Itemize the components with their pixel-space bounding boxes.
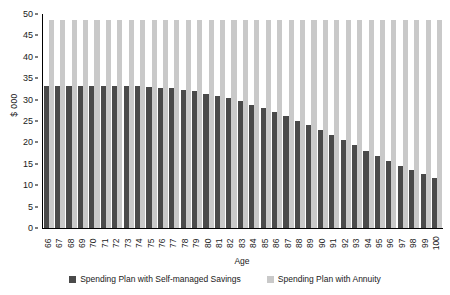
x-tick-label: 94 (363, 239, 372, 248)
x-tick-label: 92 (340, 239, 349, 248)
x-tick-label: 71 (101, 239, 110, 248)
bar-group (374, 14, 385, 228)
bar-group (54, 14, 65, 228)
bar-annuity (380, 20, 385, 228)
bar-group (43, 14, 54, 228)
bar-group (203, 14, 214, 228)
bar-group (420, 14, 431, 228)
bar-annuity (403, 20, 408, 228)
y-tick-label: 25 (23, 117, 33, 126)
x-tick-label: 77 (169, 239, 178, 248)
x-tick-label: 66 (43, 239, 52, 248)
x-tick-label: 90 (318, 239, 327, 248)
x-tick-label: 72 (112, 239, 121, 248)
bar-group (397, 14, 408, 228)
x-tick-label: 93 (352, 239, 361, 248)
bar-annuity (140, 20, 145, 228)
bar-annuity (266, 20, 271, 228)
x-tick-label: 91 (329, 239, 338, 248)
y-tick-mark (35, 142, 38, 143)
bar-annuity (49, 20, 54, 228)
bar-group (409, 14, 420, 228)
legend-label: Spending Plan with Self-managed Savings (80, 274, 241, 284)
bar-group (169, 14, 180, 228)
legend-swatch-icon (69, 276, 76, 283)
y-tick-label: 15 (23, 159, 33, 168)
bar-annuity (83, 20, 88, 228)
x-tick-label: 70 (89, 239, 98, 248)
x-tick-label: 68 (66, 239, 75, 248)
bar-group (271, 14, 282, 228)
bar-group (100, 14, 111, 228)
bar-group (306, 14, 317, 228)
legend-label: Spending Plan with Annuity (278, 274, 381, 284)
x-tick-label: 81 (215, 239, 224, 248)
x-tick-label: 80 (203, 239, 212, 248)
plot-area (42, 14, 443, 229)
x-axis-title: Age (42, 256, 442, 266)
bar-group (226, 14, 237, 228)
y-tick-label: 0 (28, 224, 33, 233)
bar-annuity (414, 20, 419, 228)
x-tick-label: 86 (272, 239, 281, 248)
y-tick-label: 45 (23, 31, 33, 40)
bar-annuity (277, 20, 282, 228)
bar-annuity (186, 20, 191, 228)
y-tick-label: 50 (23, 10, 33, 19)
x-tick-label: 79 (192, 239, 201, 248)
x-tick-label: 89 (306, 239, 315, 248)
bar-annuity (391, 20, 396, 228)
bar-annuity (174, 20, 179, 228)
bar-annuity (426, 20, 431, 228)
bar-group (146, 14, 157, 228)
bar-annuity (289, 20, 294, 228)
y-tick-mark (35, 228, 38, 229)
bar-annuity (197, 20, 202, 228)
bar-annuity (209, 20, 214, 228)
x-tick-label: 100 (432, 236, 441, 250)
x-tick-label: 84 (249, 239, 258, 248)
bar-group (157, 14, 168, 228)
bar-annuity (94, 20, 99, 228)
x-tick-label: 85 (260, 239, 269, 248)
x-tick-label: 67 (55, 239, 64, 248)
bar-annuity (437, 20, 442, 228)
y-tick-mark (35, 185, 38, 186)
bar-annuity (129, 20, 134, 228)
legend-entry: Spending Plan with Self-managed Savings (69, 274, 241, 284)
y-tick-label: 40 (23, 52, 33, 61)
bar-annuity (163, 20, 168, 228)
y-axis-tick-labels: 05101520253035404550 (0, 14, 38, 228)
bar-group (340, 14, 351, 228)
bar-group (89, 14, 100, 228)
y-tick-label: 10 (23, 181, 33, 190)
y-tick-mark (35, 163, 38, 164)
bar-group (123, 14, 134, 228)
bar-group (329, 14, 340, 228)
x-tick-label: 78 (181, 239, 190, 248)
y-tick-mark (35, 99, 38, 100)
bar-group (180, 14, 191, 228)
x-tick-label: 82 (226, 239, 235, 248)
y-tick-label: 30 (23, 95, 33, 104)
bar-annuity (106, 20, 111, 228)
bar-group (191, 14, 202, 228)
bar-group (134, 14, 145, 228)
chart-legend: Spending Plan with Self-managed SavingsS… (0, 274, 450, 284)
y-tick-mark (35, 56, 38, 57)
x-tick-label: 88 (295, 239, 304, 248)
y-tick-mark (35, 206, 38, 207)
bar-annuity (231, 20, 236, 228)
x-tick-label: 83 (238, 239, 247, 248)
y-tick-label: 20 (23, 138, 33, 147)
x-tick-label: 75 (146, 239, 155, 248)
bar-annuity (152, 20, 157, 228)
bar-annuity (72, 20, 77, 228)
x-tick-label: 74 (135, 239, 144, 248)
x-tick-label: 98 (409, 239, 418, 248)
bar-group (317, 14, 328, 228)
bar-annuity (357, 20, 362, 228)
bar-annuity (254, 20, 259, 228)
bar-group (77, 14, 88, 228)
bar-annuity (243, 20, 248, 228)
